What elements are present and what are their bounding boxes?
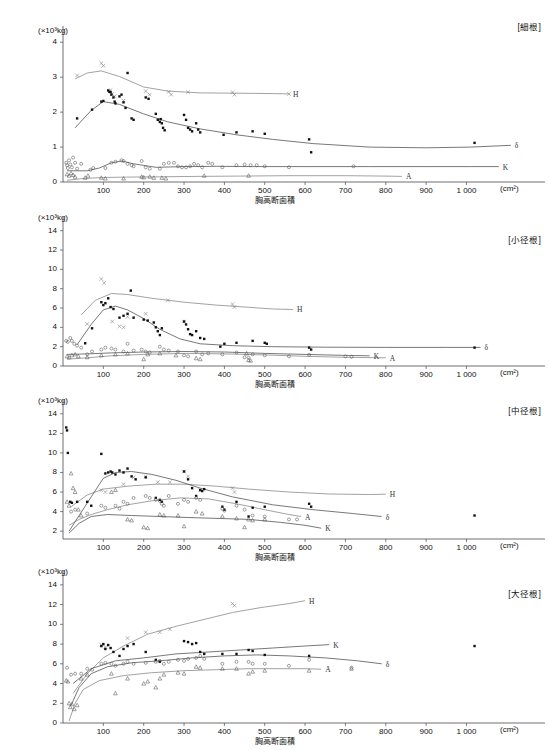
data-point-S <box>90 505 92 507</box>
panel-fine-roots: (×10³kg) [細根] HδKA (cm²) 胸高断面積 01234 100… <box>0 0 549 195</box>
data-point-H <box>186 475 190 479</box>
data-point-A <box>152 176 156 180</box>
data-point-K <box>112 651 114 653</box>
data-point-S <box>251 130 253 132</box>
y-tick-label: 1 <box>39 142 57 151</box>
data-point-K <box>243 356 246 359</box>
fitted-curve-K <box>69 515 321 534</box>
data-point-A <box>75 703 79 707</box>
data-point-H <box>156 480 160 484</box>
data-point-A <box>114 504 117 507</box>
data-point-S <box>251 506 253 508</box>
data-point-S <box>120 93 122 95</box>
data-point-S <box>109 91 111 93</box>
curve-end-label-H: H <box>297 305 303 314</box>
data-point-S <box>118 469 120 471</box>
data-point-S <box>185 119 187 121</box>
y-tick-label: 10 <box>39 264 57 273</box>
x-tick-label: 1 000 <box>449 186 483 195</box>
data-point-H <box>118 325 122 329</box>
curve-end-label-H: H <box>390 490 396 499</box>
data-point-H <box>148 93 152 97</box>
data-point-K <box>183 354 186 357</box>
data-point-K <box>243 525 247 529</box>
x-axis-unit-4: (cm²) <box>500 725 519 734</box>
fitted-curve-K <box>73 645 329 684</box>
data-point-A <box>247 174 251 178</box>
data-point-A <box>187 500 190 503</box>
x-tick-label: 1 000 <box>449 370 483 379</box>
data-point-A <box>198 666 202 670</box>
data-point-S <box>109 306 111 308</box>
data-point-A <box>263 669 267 673</box>
data-point-K <box>65 500 69 504</box>
data-point-A <box>132 496 135 499</box>
data-point-S <box>126 313 128 315</box>
x-tick-label: 200 <box>127 370 161 379</box>
data-point-K <box>66 167 69 170</box>
data-point-A <box>126 677 130 681</box>
y-tick-label: 2 <box>39 526 57 535</box>
data-point-K <box>69 163 72 166</box>
x-tick-label: 300 <box>167 370 201 379</box>
data-point-S <box>100 301 102 303</box>
data-point-S <box>126 660 129 663</box>
x-tick-label: 900 <box>409 543 443 552</box>
data-point-K <box>264 654 266 656</box>
data-point-S <box>71 502 73 504</box>
fitted-curve-H <box>81 294 293 315</box>
data-point-K <box>144 350 147 353</box>
data-point-S <box>153 321 155 323</box>
data-point-S <box>132 119 134 121</box>
y-tick-label: 6 <box>39 303 57 312</box>
data-point-K <box>162 348 165 351</box>
curve-end-label-A: A <box>305 513 311 522</box>
data-point-S <box>122 101 124 103</box>
x-tick-label: 300 <box>167 543 201 552</box>
data-point-S <box>264 506 266 508</box>
data-point-S <box>197 128 199 130</box>
data-point-H <box>126 315 130 319</box>
data-point-K <box>167 161 170 164</box>
data-point-A <box>85 355 89 359</box>
x-axis-title-2: 胸高断面積 <box>255 378 295 389</box>
curve-end-label-A: A <box>325 665 331 674</box>
data-point-K <box>70 339 73 342</box>
data-point-A <box>194 665 198 669</box>
data-point-K <box>76 508 80 512</box>
data-point-H <box>85 322 89 326</box>
x-tick-label: 1 000 <box>449 543 483 552</box>
plot-area-4: HKδA <box>0 563 549 750</box>
data-point-S <box>251 340 253 342</box>
data-point-K <box>104 648 106 650</box>
data-point-A <box>247 672 251 676</box>
data-point-S <box>65 426 67 428</box>
data-point-S <box>247 660 250 663</box>
x-tick-label: 100 <box>86 186 120 195</box>
data-point-K <box>126 342 129 345</box>
y-tick-label: 6 <box>39 659 57 668</box>
data-point-A <box>235 667 239 671</box>
x-axis-title-3: 胸高断面積 <box>255 551 295 562</box>
x-axis-unit-3: (cm²) <box>500 541 519 550</box>
x-tick-label: 100 <box>86 370 120 379</box>
data-point-A <box>160 176 164 180</box>
data-point-K <box>287 355 290 358</box>
data-point-H <box>122 326 126 330</box>
data-point-H <box>126 636 130 640</box>
data-point-K <box>263 517 267 521</box>
data-point-A <box>144 494 147 497</box>
data-point-S <box>100 662 103 665</box>
data-point-A <box>296 518 299 521</box>
data-point-S <box>104 472 106 474</box>
data-point-S <box>157 119 159 121</box>
data-point-K <box>73 490 77 494</box>
data-point-S <box>145 96 147 98</box>
data-point-K <box>140 348 143 351</box>
data-point-K <box>148 167 151 170</box>
x-tick-label: 200 <box>127 543 161 552</box>
data-point-S <box>142 318 144 320</box>
fitted-curve-A <box>69 669 321 721</box>
y-tick-label: 12 <box>39 600 57 609</box>
x-tick-label: 300 <box>167 186 201 195</box>
